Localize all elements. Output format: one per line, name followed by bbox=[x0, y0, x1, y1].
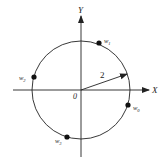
label-w3: w3 bbox=[55, 137, 62, 146]
point-w0 bbox=[125, 102, 130, 107]
x-axis-label: X bbox=[151, 85, 158, 95]
label-w2: w2 bbox=[19, 74, 26, 83]
point-w3 bbox=[64, 134, 69, 139]
y-axis-label: Y bbox=[78, 5, 84, 15]
origin-label: 0 bbox=[73, 92, 77, 101]
label-w1: w1 bbox=[104, 37, 111, 46]
radius-label: 2 bbox=[100, 70, 105, 80]
label-w0: w0 bbox=[133, 104, 140, 113]
complex-plane-diagram: Y X 0 2 w1 w2 w0 w3 bbox=[0, 0, 166, 164]
point-w1 bbox=[96, 40, 101, 45]
point-w2 bbox=[31, 74, 36, 79]
